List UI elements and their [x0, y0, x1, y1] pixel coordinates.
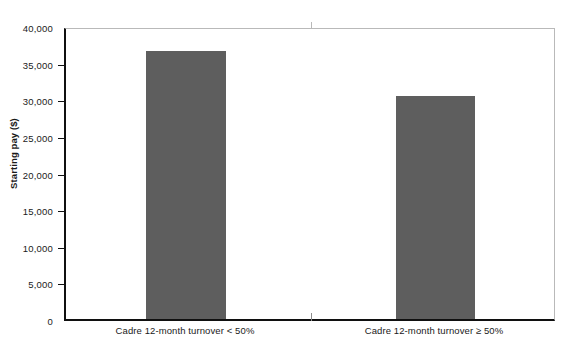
y-tick-label-10000: 10,000 [23, 242, 53, 253]
y-tick-label-20000: 20,000 [23, 169, 53, 180]
y-tick-label-35000: 35,000 [23, 59, 53, 70]
bar-turnover-under-50 [146, 51, 226, 319]
x-tick-label-turnover-under-50: Cadre 12-month turnover < 50% [116, 325, 255, 336]
bar-chart: Starting pay ($) 40,000 35,000 30,000 25… [0, 0, 566, 343]
plot-area [64, 28, 555, 321]
y-tick-label-0: 0 [48, 316, 53, 327]
y-tick-label-5000: 5,000 [28, 279, 53, 290]
axis-top-center-tick [311, 22, 312, 29]
x-tick-label-turnover-over-50: Cadre 12-month turnover ≥ 50% [365, 325, 504, 336]
bar-turnover-over-50 [396, 96, 475, 319]
y-tick-label-30000: 30,000 [23, 96, 53, 107]
y-axis-title: Starting pay ($) [8, 94, 19, 214]
y-tick-label-25000: 25,000 [23, 132, 53, 143]
axis-center-tick [311, 313, 312, 321]
y-tick-label-40000: 40,000 [23, 23, 53, 34]
y-tick-label-15000: 15,000 [23, 206, 53, 217]
